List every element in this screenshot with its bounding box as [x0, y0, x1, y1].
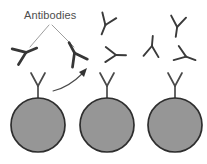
antibody-3 [95, 13, 117, 38]
cell-2 [80, 73, 134, 152]
antibody-4 [105, 47, 126, 63]
cell-2-body [80, 98, 134, 152]
antibody-2 [62, 39, 88, 67]
cell-3-receptor [168, 73, 182, 100]
cell-3-body [148, 98, 202, 152]
diagram-canvas: Antibodies [0, 0, 207, 164]
antibody-5 [144, 35, 161, 57]
release-arrow [53, 68, 87, 91]
antibody-1 [12, 40, 40, 64]
cell-1-receptor [31, 73, 45, 100]
cell-1 [11, 73, 65, 152]
antibodies-label: Antibodies [24, 9, 77, 21]
antibody-diagram: Antibodies [0, 0, 207, 164]
cell-1-body [11, 98, 65, 152]
cell-group [11, 73, 202, 152]
cell-3 [148, 73, 202, 152]
leader-lines [30, 25, 74, 47]
release-arrow-curve [53, 73, 83, 91]
antibody-6 [168, 16, 186, 38]
leader-line-left [30, 25, 49, 47]
antibody-7 [174, 46, 198, 67]
cell-2-receptor [100, 73, 114, 100]
